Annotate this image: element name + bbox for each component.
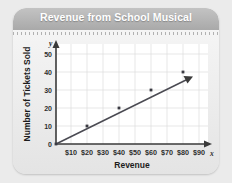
y-tick-labels: 0 10 20 30 40 50: [44, 51, 52, 148]
chart-container: 0 10 20 30 40 50 $10 $20 $30 $40 $50 $60…: [13, 34, 219, 174]
data-point: [150, 89, 153, 92]
plot-background: [56, 44, 208, 144]
revenue-tickets-line-chart: 0 10 20 30 40 50 $10 $20 $30 $40 $50 $60…: [13, 34, 219, 174]
x-tick-label: $90: [193, 148, 205, 157]
data-point: [55, 143, 58, 146]
x-tick-label: $30: [97, 148, 109, 157]
x-tick-labels: $10 $20 $30 $40 $50 $60 $70 $80 $90: [65, 148, 205, 157]
x-tick-label: $70: [161, 148, 173, 157]
page-root: Revenue from School Musical: [0, 0, 232, 183]
y-axis-variable-label: y: [48, 39, 53, 48]
y-tick-label: 0: [48, 141, 52, 148]
y-tick-label: 20: [44, 105, 52, 112]
y-tick-label: 30: [44, 87, 52, 94]
page-title: Revenue from School Musical: [13, 11, 219, 23]
x-tick-label: $10: [65, 148, 77, 157]
x-tick-label: $60: [145, 148, 157, 157]
data-point: [182, 71, 185, 74]
card-header: Revenue from School Musical: [13, 8, 219, 30]
data-point: [86, 125, 89, 128]
x-axis-variable-label: x: [209, 149, 214, 158]
data-point: [118, 107, 121, 110]
x-tick-label: $80: [177, 148, 189, 157]
x-tick-label: $40: [113, 148, 125, 157]
x-tick-label: $20: [81, 148, 93, 157]
y-tick-label: 40: [44, 69, 52, 76]
x-tick-label: $50: [129, 148, 141, 157]
y-axis-title: Number of Tickets Sold: [22, 47, 32, 142]
chart-card: Revenue from School Musical: [13, 8, 219, 174]
y-tick-label: 50: [44, 51, 52, 58]
x-axis-title: Revenue: [114, 160, 150, 170]
y-tick-label: 10: [44, 123, 52, 130]
